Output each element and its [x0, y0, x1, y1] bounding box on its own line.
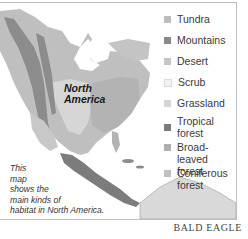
- coniferous-forest-swatch-icon: [164, 170, 171, 177]
- legend-item-tundra: Tundra: [164, 13, 210, 25]
- desert-swatch-icon: [164, 58, 171, 65]
- grassland-swatch-icon: [164, 100, 171, 107]
- florida: [112, 131, 120, 153]
- legend-item-coniferous-forest: Coniferous forest: [164, 167, 228, 191]
- map-figure: North America This map shows the main ki…: [0, 2, 237, 220]
- island: [136, 166, 144, 169]
- region-label: North America: [64, 83, 105, 105]
- legend-item-mountains: Mountains: [164, 34, 225, 46]
- mountains-swatch-icon: [164, 37, 171, 44]
- tundra-swatch-icon: [164, 16, 171, 23]
- legend-item-desert: Desert: [164, 55, 208, 67]
- legend-item-scrub: Scrub: [164, 76, 205, 88]
- legend-item-tropical-forest: Tropical forest: [164, 115, 214, 139]
- scrub-swatch-icon: [164, 79, 172, 87]
- map-caption: This map shows the main kinds of habitat…: [10, 163, 130, 216]
- legend-item-grassland: Grassland: [164, 97, 225, 109]
- broad-leaved-forest-swatch-icon: [164, 144, 171, 151]
- credit-text: BALD EAGLE: [174, 222, 243, 233]
- tropical-forest-swatch-icon: [164, 124, 171, 131]
